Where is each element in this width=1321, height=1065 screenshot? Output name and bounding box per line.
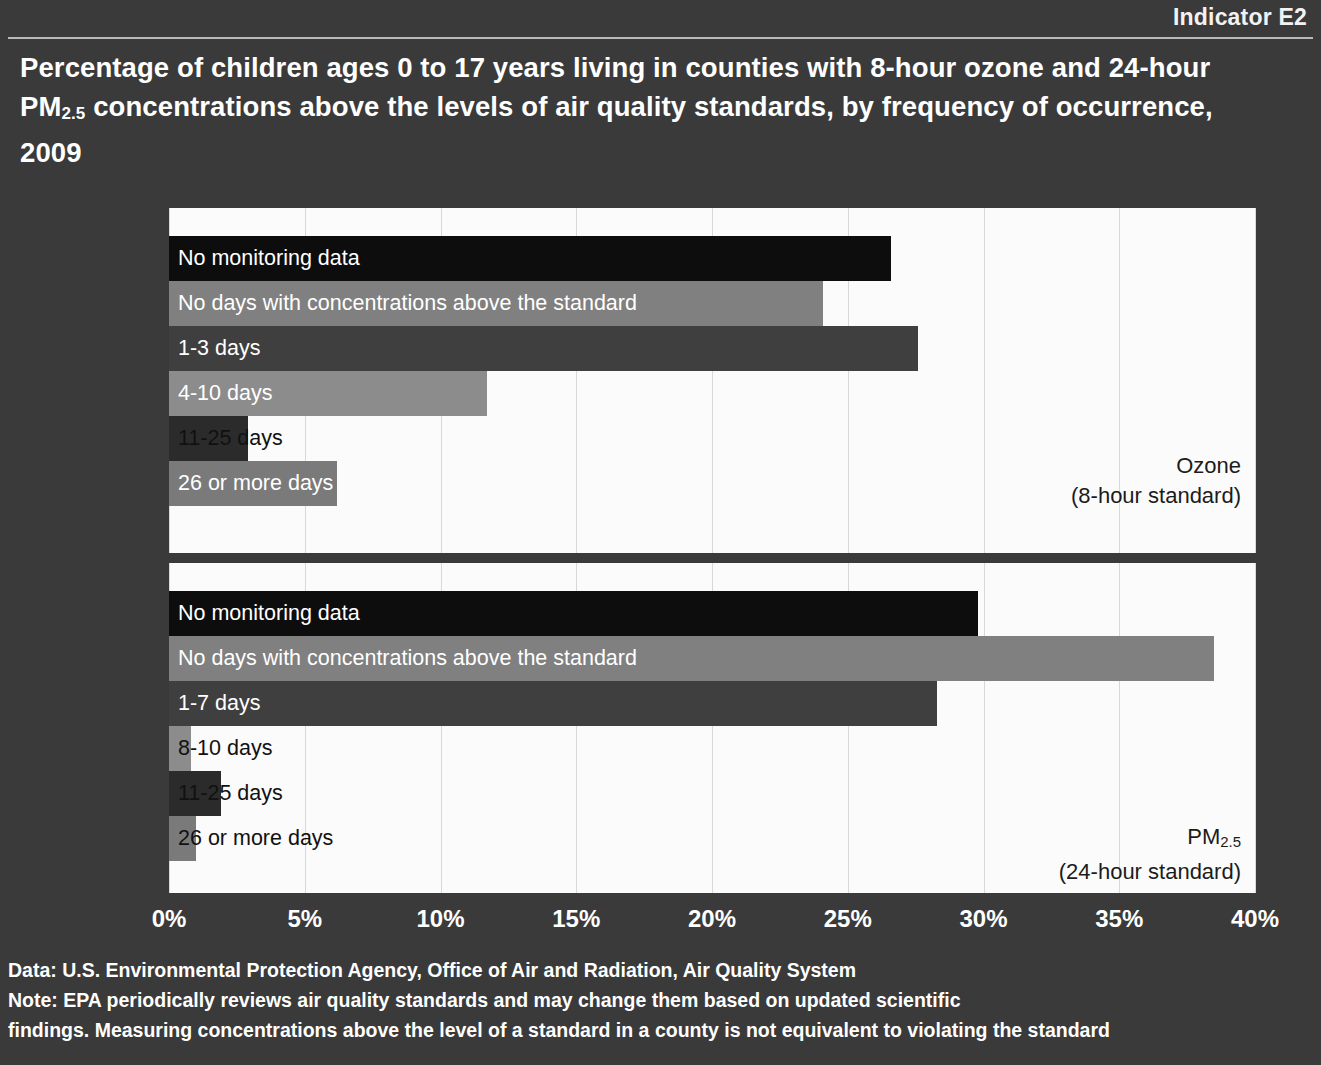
x-tick-35: 35% [1095,905,1143,933]
panel-caption-ozone: Ozone (8-hour standard) [1071,451,1241,511]
gridline-40 [1255,208,1256,553]
gridline-40 [1255,563,1256,893]
panel-caption-pm25: PM2.5 (24-hour standard) [1059,822,1241,887]
footer-data-source: Data: U.S. Environmental Protection Agen… [8,955,1308,985]
bar-label: No days with concentrations above the st… [178,293,637,315]
chart-panel-ozone: No monitoring dataNo days with concentra… [169,208,1255,553]
bar-label: 8-10 days [178,738,272,760]
bar-pm25-2[interactable] [169,681,937,726]
x-axis: 0%5%10%15%20%25%30%35%40% [0,899,1321,943]
bar-row[interactable]: 4-10 days [169,371,1255,416]
x-tick-25: 25% [824,905,872,933]
bar-row[interactable]: No days with concentrations above the st… [169,281,1255,326]
caption-pm-text: PM [1187,824,1220,849]
bar-row[interactable]: No days with concentrations above the st… [169,636,1255,681]
bar-ozone-2[interactable] [169,326,918,371]
bar-label: 11-25 days [178,428,283,450]
bar-row[interactable]: 11-25 days [169,771,1255,816]
bar-label: 1-3 days [178,338,260,360]
bar-label: 4-10 days [178,383,272,405]
chart-panel-pm25: No monitoring dataNo days with concentra… [169,563,1255,893]
bar-row[interactable]: 1-7 days [169,681,1255,726]
caption-pm-subscript: 2.5 [1220,833,1241,850]
footer-note-line-1: Note: EPA periodically reviews air quali… [8,985,1308,1015]
caption-ozone-line-2: (8-hour standard) [1071,481,1241,511]
bar-label: 26 or more days [178,473,333,495]
chart-container: No monitoring dataNo days with concentra… [0,0,1321,1065]
bar-label: No days with concentrations above the st… [178,648,637,670]
x-tick-30: 30% [959,905,1007,933]
bar-label: 1-7 days [178,693,260,715]
bar-label: 26 or more days [178,828,333,850]
bar-label: No monitoring data [178,248,360,270]
x-tick-20: 20% [688,905,736,933]
caption-pm-line-2: (24-hour standard) [1059,857,1241,887]
bar-label: 11-25 days [178,783,283,805]
bar-row[interactable]: No monitoring data [169,591,1255,636]
footer-notes: Data: U.S. Environmental Protection Agen… [8,955,1308,1045]
x-tick-0: 0% [152,905,187,933]
bar-row[interactable]: 1-3 days [169,326,1255,371]
x-tick-40: 40% [1231,905,1279,933]
footer-note-line-2: findings. Measuring concentrations above… [8,1015,1308,1045]
bar-label: No monitoring data [178,603,360,625]
x-tick-10: 10% [416,905,464,933]
x-tick-15: 15% [552,905,600,933]
caption-pm-line-1: PM2.5 [1059,822,1241,857]
caption-ozone-line-1: Ozone [1071,451,1241,481]
bar-row[interactable]: 8-10 days [169,726,1255,771]
x-tick-5: 5% [287,905,322,933]
bar-row[interactable]: No monitoring data [169,236,1255,281]
